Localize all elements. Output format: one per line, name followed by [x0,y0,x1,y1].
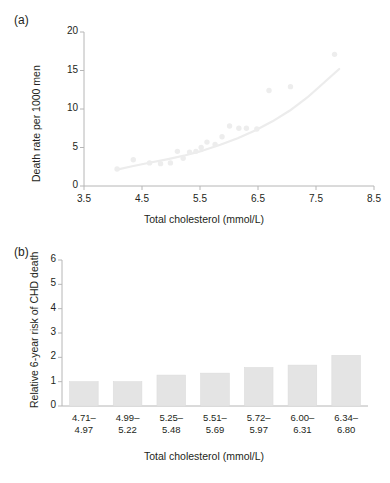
panel-a-xtick-6.5: 6.5 [238,193,278,204]
panel-b-bar [332,355,361,406]
panel-b-bar [201,373,230,406]
panel-b-bar [157,375,186,406]
panel-b-bar [113,382,142,406]
panel-b-category-label: 6.34–6.80 [324,412,368,435]
panel-a-data-point [193,149,198,154]
panel-a-data-point [187,149,192,154]
panel-b-category-label: 5.25–5.48 [149,412,193,435]
panel-a-xtick-5.5: 5.5 [180,193,220,204]
panel-b-category-label-line2: 5.69 [193,424,237,436]
panel-a-data-point [266,88,271,93]
panel-b-ytick-4: 4 [24,302,56,313]
panel-a-data-point [236,126,241,131]
panel-b-category-label: 4.99–5.22 [106,412,150,435]
panel-b-category-label-line2: 6.80 [324,424,368,436]
panel-a-xtick-3.5: 3.5 [64,193,104,204]
panel-a-data-point [131,157,136,162]
panel-a-ytick-15: 15 [46,64,78,75]
panel-b-category-label-line1: 5.51– [193,412,237,424]
panel-a-data-point [168,160,173,165]
panel-a-xtick-4.5: 4.5 [122,193,162,204]
panel-a-xtick-7.5: 7.5 [296,193,336,204]
panel-a-data-point [219,134,224,139]
panel-b-category-label: 5.51–5.69 [193,412,237,435]
panel-b-category-label-line2: 5.22 [106,424,150,436]
panel-a-data-point [180,156,185,161]
panel-b-category-label-line1: 6.00– [281,412,325,424]
panel-b-plot [0,238,390,483]
panel-b-bar [288,365,317,406]
panel-a-data-point [204,139,209,144]
panel-a-data-point [114,166,119,171]
panel-b-category-label-line2: 5.97 [237,424,281,436]
panel-b-category-label-line1: 5.72– [237,412,281,424]
figure: (a) Death rate per 1000 men Total choles… [0,0,390,483]
panel-b-ytick-5: 5 [24,277,56,288]
panel-b-category-label: 6.00–6.31 [281,412,325,435]
panel-b-x-axis-title: Total cholesterol (mmol/L) [34,450,374,462]
panel-a-x-axis-title: Total cholesterol (mmol/L) [34,213,374,225]
panel-a-data-point [244,126,249,131]
panel-b-category-label: 4.71–4.97 [62,412,106,435]
panel-b-ytick-2: 2 [24,350,56,361]
panel-a-data-point [175,149,180,154]
panel-a-data-point [212,142,217,147]
panel-b-bar [70,382,99,406]
panel-a-scatter: (a) Death rate per 1000 men Total choles… [0,0,390,238]
panel-a-ytick-5: 5 [46,141,78,152]
panel-b-category-label-line1: 4.99– [106,412,150,424]
panel-a-xtick-8.5: 8.5 [354,193,390,204]
panel-a-data-point [227,123,232,128]
panel-a-data-point [147,160,152,165]
panel-b-ytick-1: 1 [24,375,56,386]
panel-b-ytick-0: 0 [24,399,56,410]
panel-b-category-label-line2: 5.48 [149,424,193,436]
panel-a-data-point [198,145,203,150]
panel-a-ytick-10: 10 [46,102,78,113]
panel-a-ytick-20: 20 [46,25,78,36]
panel-b-category-label-line1: 6.34– [324,412,368,424]
panel-a-fit-curve [116,69,339,170]
panel-a-data-point [288,84,293,89]
panel-b-category-label-line2: 6.31 [281,424,325,436]
panel-a-data-point [332,52,337,57]
panel-a-ytick-0: 0 [46,179,78,190]
panel-b-category-label-line1: 4.71– [62,412,106,424]
panel-b-category-label-line2: 4.97 [62,424,106,436]
panel-b-category-label: 5.72–5.97 [237,412,281,435]
panel-b-ytick-6: 6 [24,253,56,264]
panel-b-ytick-3: 3 [24,326,56,337]
panel-b-bar [244,368,273,406]
panel-b-bar-chart: (b) Relative 6-year risk of CHD death To… [0,238,390,483]
panel-a-data-point [254,126,259,131]
panel-a-y-axis-title: Death rate per 1000 men [30,65,42,182]
panel-a-data-point [158,161,163,166]
panel-b-category-label-line1: 5.25– [149,412,193,424]
